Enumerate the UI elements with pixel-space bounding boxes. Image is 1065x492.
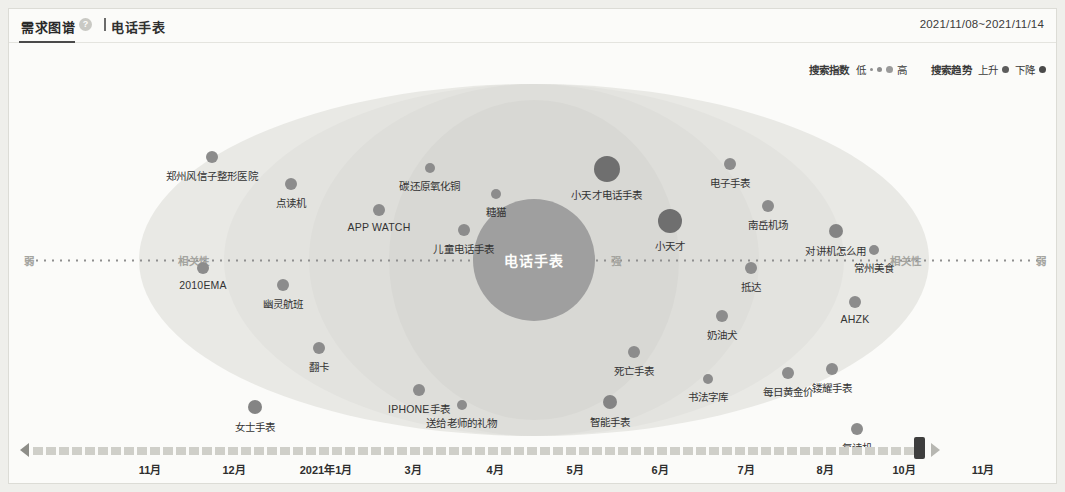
keyword-node-label: 幽灵航班 xyxy=(263,296,304,311)
keyword-node-label: 点读机 xyxy=(276,195,307,210)
timeline[interactable]: 11月12月2021年1月3月4月5月6月7月8月10月11月 xyxy=(9,437,1057,483)
keyword-node[interactable] xyxy=(716,310,728,322)
keyword-node-label: 每日黄金价 xyxy=(763,384,814,399)
legend-trend-title: 搜索趋势 xyxy=(931,62,972,77)
keyword-node-label: 女士手表 xyxy=(235,419,276,434)
keyword-node-label: 对讲机怎么用 xyxy=(805,243,866,258)
keyword-node-label: 南岳机场 xyxy=(748,217,789,232)
keyword-node-label: 小天才 xyxy=(655,238,686,253)
trend-up-dot-icon xyxy=(1002,66,1009,73)
keyword-node-label: 奶油犬 xyxy=(707,327,738,342)
keyword-node-label: 死亡手表 xyxy=(614,363,655,378)
date-range-label: 2021/11/08~2021/11/14 xyxy=(920,18,1044,30)
keyword-node[interactable] xyxy=(313,342,325,354)
keyword-node[interactable] xyxy=(745,262,757,274)
keyword-node-label: 抵达 xyxy=(741,279,761,294)
index-dot-small-icon xyxy=(870,68,873,71)
keyword-node-label: 翻卡 xyxy=(309,359,329,374)
keyword-node[interactable] xyxy=(849,296,861,308)
keyword-node-label: 常州美食 xyxy=(854,260,895,275)
keyword-node[interactable] xyxy=(248,400,262,414)
keyword-node[interactable] xyxy=(594,156,620,182)
keyword-node[interactable] xyxy=(869,245,879,255)
timeline-tick-label: 8月 xyxy=(816,461,833,477)
keyword-node-label: 镂耀手表 xyxy=(812,380,853,395)
keyword-node[interactable] xyxy=(491,189,501,199)
keyword-node[interactable] xyxy=(197,262,209,274)
axis-label-weak-right: 弱 xyxy=(1033,253,1050,268)
keyword-node[interactable] xyxy=(458,224,470,236)
keyword-node-label: IPHONE手表 xyxy=(388,401,450,416)
timeline-track[interactable] xyxy=(33,447,923,455)
keyword-node-label: 送给老师的礼物 xyxy=(426,415,497,430)
keyword-node[interactable] xyxy=(703,374,713,384)
timeline-tick-label: 7月 xyxy=(737,461,754,477)
timeline-tick-label: 11月 xyxy=(972,461,995,477)
timeline-tick-label: 5月 xyxy=(566,461,583,477)
legend-index-scale: 低 高 xyxy=(856,62,907,77)
keyword-node[interactable] xyxy=(724,158,736,170)
keyword-node-label: 智能手表 xyxy=(590,414,631,429)
demand-graph-panel: 需求图谱 ? 电话手表 2021/11/08~2021/11/14 搜索指数 低… xyxy=(8,8,1057,484)
axis-label-strong-right: 强 xyxy=(608,253,625,268)
keyword-node-label: 小天才电话手表 xyxy=(571,187,642,202)
keyword-node[interactable] xyxy=(628,346,640,358)
keyword-node[interactable] xyxy=(425,163,435,173)
keyword-node-label: APP WATCH xyxy=(348,221,411,233)
keyword-node-label: 郑州风信子整形医院 xyxy=(166,168,258,183)
center-node-label: 电话手表 xyxy=(504,250,564,270)
keyword-node[interactable] xyxy=(826,363,838,375)
right-arrow-icon[interactable] xyxy=(931,443,940,457)
keyword-node-label: 糖猫 xyxy=(486,204,506,219)
keyword-node[interactable] xyxy=(277,279,289,291)
keyword-node[interactable] xyxy=(413,384,425,396)
legend-index-title: 搜索指数 xyxy=(809,62,850,77)
index-dot-medium-icon xyxy=(877,67,882,72)
keyword-node[interactable] xyxy=(782,367,794,379)
keyword-node[interactable] xyxy=(829,224,843,238)
graph-canvas: 弱 相关性 强 强 相关性 弱 电话手表 郑州风信子整形医院点读机APP WAT… xyxy=(9,81,1057,439)
keyword-label: 电话手表 xyxy=(111,17,165,36)
keyword-node[interactable] xyxy=(457,400,467,410)
legend-index-low-label: 低 xyxy=(856,62,866,77)
axis-label-weak-left: 弱 xyxy=(21,253,38,268)
keyword-node-label: 儿童电话手表 xyxy=(433,241,494,256)
legend-trend-down-label: 下降 xyxy=(1015,62,1035,77)
trend-down-dot-icon xyxy=(1039,66,1046,73)
index-dot-large-icon xyxy=(886,66,893,73)
timeline-tick-label: 4月 xyxy=(486,461,503,477)
legend-trend-down: 下降 xyxy=(1015,62,1046,77)
keyword-node-label: 碳还原氧化铜 xyxy=(399,178,460,193)
page-title: 需求图谱 xyxy=(21,17,75,36)
active-tab-underline xyxy=(19,41,75,43)
timeline-tick-label: 12月 xyxy=(222,461,245,477)
keyword-node[interactable] xyxy=(603,395,617,409)
help-icon[interactable]: ? xyxy=(79,18,92,31)
keyword-node-label: 2010EMA xyxy=(179,279,227,291)
timeline-tick-label: 3月 xyxy=(404,461,421,477)
keyword-node[interactable] xyxy=(373,204,385,216)
keyword-node[interactable] xyxy=(762,200,774,212)
legend-index-high-label: 高 xyxy=(897,62,907,77)
keyword-node-label: 书法字库 xyxy=(688,389,729,404)
timeline-handle[interactable] xyxy=(914,437,925,459)
keyword-node[interactable] xyxy=(851,423,863,435)
timeline-tick-label: 10月 xyxy=(892,461,915,477)
keyword-node[interactable] xyxy=(658,209,682,233)
timeline-tick-label: 11月 xyxy=(139,461,162,477)
keyword-node-label: 电子手表 xyxy=(710,175,751,190)
timeline-tick-label: 2021年1月 xyxy=(300,461,353,477)
panel-header: 需求图谱 ? 电话手表 2021/11/08~2021/11/14 xyxy=(9,9,1056,43)
legend-trend-up: 上升 xyxy=(978,62,1009,77)
left-arrow-icon[interactable] xyxy=(20,443,29,457)
keyword-node[interactable] xyxy=(206,151,218,163)
title-divider xyxy=(104,18,106,31)
legend: 搜索指数 低 高 搜索趋势 上升 下降 xyxy=(809,61,1046,77)
keyword-node[interactable] xyxy=(285,178,297,190)
legend-trend-up-label: 上升 xyxy=(978,62,998,77)
timeline-tick-label: 6月 xyxy=(651,461,668,477)
keyword-node-label: AHZK xyxy=(841,313,870,325)
